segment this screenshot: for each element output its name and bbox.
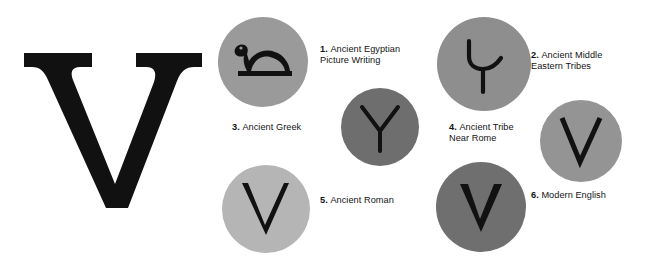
stage-circle-1	[218, 17, 308, 107]
stage-label-2: Ancient Middle Eastern Tribes	[531, 50, 602, 71]
modern-v-glyph	[436, 162, 526, 252]
stage-caption-6: 6. Modern English	[531, 190, 649, 201]
stage-label-3: Ancient Greek	[242, 122, 301, 132]
stage-label-5: Ancient Roman	[330, 195, 393, 205]
stage-caption-5: 5. Ancient Roman	[320, 195, 432, 206]
egyptian-horned-viper-hieroglyph	[218, 17, 308, 107]
stage-label-4: Ancient Tribe Near Rome	[449, 122, 514, 143]
stage-number-6: 6.	[531, 190, 541, 200]
stage-caption-4: 4. Ancient Tribe Near Rome	[449, 122, 561, 145]
letter-evolution-figure: 1. Ancient Egyptian Picture Writing 2. A…	[0, 0, 655, 262]
stage-number-5: 5.	[320, 195, 330, 205]
stage-label-1: Ancient Egyptian Picture Writing	[320, 44, 400, 65]
stage-number-2: 2.	[531, 50, 541, 60]
stage-caption-1: 1. Ancient Egyptian Picture Writing	[320, 44, 438, 67]
large-serif-letter-v	[18, 48, 208, 223]
stage-circle-6	[436, 162, 526, 252]
stage-caption-2: 2. Ancient Middle Eastern Tribes	[531, 50, 651, 73]
stage-circle-2	[437, 17, 531, 111]
roman-capital-v-glyph	[222, 165, 310, 253]
hooked-y-glyph	[437, 17, 531, 111]
stage-circle-5	[222, 165, 310, 253]
stage-number-3: 3.	[232, 122, 242, 132]
stage-label-6: Modern English	[541, 190, 606, 200]
stage-number-4: 4.	[449, 122, 459, 132]
stage-circle-3	[341, 88, 419, 166]
stage-number-1: 1.	[320, 44, 330, 54]
stage-caption-3: 3. Ancient Greek	[232, 122, 342, 133]
greek-upsilon-glyph	[341, 88, 419, 166]
